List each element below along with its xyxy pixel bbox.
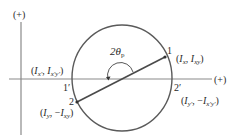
point-1-coords: (Ix, Ixy) (176, 53, 204, 66)
point-2-coords: (Iy, −Ixy) (40, 107, 73, 120)
vertical-axis-label: (+) (13, 9, 25, 21)
mohr-circle (72, 25, 172, 131)
angle-arc (108, 63, 133, 79)
point-1prime-coords: (Ix′, Ix′y′) (31, 65, 63, 78)
mohr-circle-diagram: (+) (+) 2θp 1 (Ix, Ixy) 2 (Iy, −Ixy) 1′ … (0, 0, 234, 139)
point-2prime-coords: (Iy′, −Ix′y′) (181, 95, 219, 108)
angle-label: 2θp (110, 45, 125, 59)
point-2-marker (75, 100, 78, 103)
horizontal-axis-label: (+) (214, 74, 226, 86)
point-1-label: 1 (167, 45, 172, 56)
point-1prime-label: 1′ (63, 82, 70, 93)
point-2-label: 2 (69, 96, 74, 107)
point-2prime-label: 2′ (174, 82, 181, 93)
